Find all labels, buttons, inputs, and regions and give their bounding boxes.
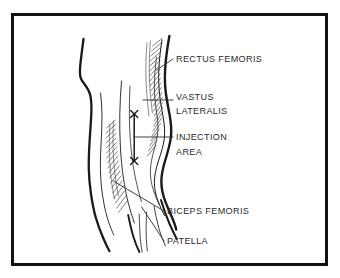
anatomy-illustration: RECTUS FEMORIS VASTUS LATERALIS INJECTIO… [0, 0, 340, 278]
label-patella: PATELLA [167, 236, 209, 246]
label-injection-area-line2: AREA [176, 147, 203, 157]
injection-site-figure: RECTUS FEMORIS VASTUS LATERALIS INJECTIO… [0, 0, 340, 278]
label-biceps-femoris: BICEPS FEMORIS [167, 206, 249, 216]
label-injection-area-line1: INJECTION [176, 132, 227, 142]
label-vastus-lateralis-line1: VASTUS [176, 92, 214, 102]
label-vastus-lateralis-line2: LATERALIS [176, 106, 228, 116]
label-rectus-femoris: RECTUS FEMORIS [176, 54, 262, 64]
